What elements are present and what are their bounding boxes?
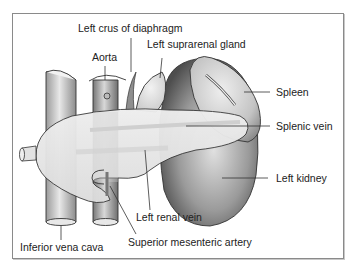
label-spleen: Spleen xyxy=(276,86,309,98)
left-suprarenal-gland xyxy=(136,72,166,112)
label-left-renal-vein: Left renal vein xyxy=(136,211,202,223)
label-left-suprarenal-gland: Left suprarenal gland xyxy=(147,38,246,50)
label-left-kidney: Left kidney xyxy=(276,172,327,184)
label-left-crus-of-diaphragm: Left crus of diaphragm xyxy=(78,22,182,34)
left-crus-of-diaphragm xyxy=(126,72,136,110)
label-splenic-vein: Splenic vein xyxy=(276,120,333,132)
label-aorta: Aorta xyxy=(92,51,117,63)
label-superior-mesenteric-artery: Superior mesenteric artery xyxy=(128,236,252,248)
label-inferior-vena-cava: Inferior vena cava xyxy=(20,241,103,253)
